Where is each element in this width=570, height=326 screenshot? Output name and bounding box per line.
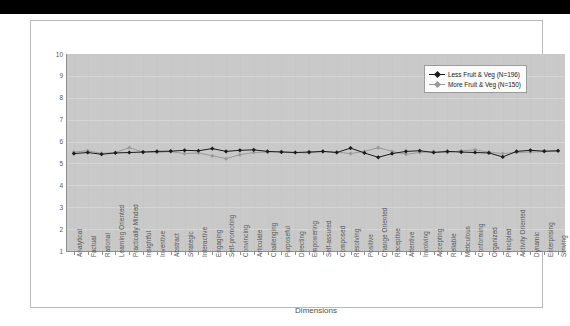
- x-axis-tick: [198, 251, 199, 255]
- x-axis-tick-label: Interactive: [201, 227, 208, 257]
- y-axis-tick-label: 6: [41, 138, 63, 145]
- y-axis-line: [66, 54, 67, 252]
- x-axis-tick: [544, 251, 545, 255]
- legend-label-series-2: More Fruit & Veg (N=150): [448, 81, 521, 88]
- x-axis-tick: [461, 251, 462, 255]
- data-point[interactable]: [210, 154, 214, 158]
- x-axis-tick: [323, 251, 324, 255]
- data-point[interactable]: [127, 150, 131, 154]
- chart-frame: 10987654321 AnalyticalFactualRationalLea…: [30, 20, 543, 308]
- x-axis-tick-label: Positive: [367, 234, 374, 257]
- data-point[interactable]: [556, 149, 560, 153]
- data-point[interactable]: [182, 148, 186, 152]
- data-point[interactable]: [141, 150, 145, 154]
- y-axis-tick-label: 9: [41, 72, 63, 79]
- data-point[interactable]: [348, 146, 352, 150]
- y-axis-tick-label: 2: [41, 226, 63, 233]
- data-point[interactable]: [210, 146, 214, 150]
- y-axis-tick-label: 10: [41, 51, 63, 58]
- x-axis-tick: [115, 251, 116, 255]
- x-axis-tick: [309, 251, 310, 255]
- x-axis-tick-label: Directing: [298, 231, 305, 257]
- x-axis-tick: [129, 251, 130, 255]
- x-axis-tick-label: Conforming: [477, 223, 484, 257]
- x-axis-tick: [102, 251, 103, 255]
- data-point[interactable]: [224, 157, 228, 161]
- legend-item[interactable]: Less Fruit & Veg (N=196): [429, 69, 521, 79]
- data-point[interactable]: [404, 149, 408, 153]
- x-axis-tick-label: Rational: [104, 233, 111, 257]
- x-axis-tick-label: Insightful: [145, 231, 152, 257]
- x-axis-tick-label: Inventive: [159, 231, 166, 257]
- x-axis-tick-label: Reliable: [450, 233, 457, 257]
- x-axis-tick-label: Dynamic: [533, 232, 540, 257]
- data-point[interactable]: [127, 146, 131, 150]
- x-axis-tick: [378, 251, 379, 255]
- x-axis-tick-label: Practically Minded: [132, 204, 139, 257]
- data-point[interactable]: [238, 153, 242, 157]
- data-point[interactable]: [542, 149, 546, 153]
- data-point[interactable]: [501, 155, 505, 159]
- x-axis-tick: [420, 251, 421, 255]
- x-axis-tick: [392, 251, 393, 255]
- x-axis-tick: [171, 251, 172, 255]
- data-point[interactable]: [376, 146, 380, 150]
- legend-marker-series-2: [429, 80, 445, 88]
- x-axis-tick-label: Resolving: [353, 228, 360, 257]
- x-axis-tick-label: Empowering: [311, 221, 318, 257]
- data-point[interactable]: [224, 149, 228, 153]
- y-axis-tick-label: 3: [41, 204, 63, 211]
- series-line: [74, 148, 558, 157]
- data-point[interactable]: [321, 149, 325, 153]
- y-axis-tick-label: 7: [41, 116, 63, 123]
- x-axis-tick-label: Composed: [339, 226, 346, 257]
- x-axis-tick-label: Involving: [422, 231, 429, 257]
- top-black-bar: [0, 0, 570, 14]
- x-axis-tick-label: Convincing: [242, 225, 249, 257]
- data-point[interactable]: [335, 150, 339, 154]
- x-axis-tick: [157, 251, 158, 255]
- x-axis-tick: [517, 251, 518, 255]
- x-axis-tick-label: Accepting: [436, 228, 443, 257]
- chart-legend: Less Fruit & Veg (N=196) More Fruit & Ve…: [424, 65, 527, 93]
- data-point[interactable]: [238, 148, 242, 152]
- legend-item[interactable]: More Fruit & Veg (N=150): [429, 79, 521, 89]
- legend-label-series-1: Less Fruit & Veg (N=196): [448, 71, 520, 78]
- x-axis-tick: [254, 251, 255, 255]
- data-point[interactable]: [348, 151, 352, 155]
- data-point[interactable]: [376, 155, 380, 159]
- x-axis-tick: [226, 251, 227, 255]
- data-point[interactable]: [279, 150, 283, 154]
- x-axis-tick-label: Purposeful: [284, 226, 291, 257]
- x-axis-tick-label: Factual: [90, 236, 97, 257]
- x-axis-tick-label: Attentive: [408, 232, 415, 257]
- x-axis-tick-label: Meticulous: [464, 226, 471, 257]
- data-point[interactable]: [252, 148, 256, 152]
- x-axis-tick: [74, 251, 75, 255]
- x-axis-tick: [447, 251, 448, 255]
- x-axis-tick: [337, 251, 338, 255]
- legend-marker-series-1: [429, 70, 445, 78]
- x-axis-tick: [364, 251, 365, 255]
- x-axis-tick-label: Striving: [560, 235, 567, 257]
- x-axis-tick-label: Challenging: [270, 223, 277, 257]
- x-axis-tick-label: Engaging: [215, 230, 222, 257]
- x-axis-tick: [268, 251, 269, 255]
- x-axis-tick-label: Enterprising: [547, 222, 554, 257]
- x-axis-tick-label: Organized: [491, 227, 498, 257]
- x-axis-tick: [240, 251, 241, 255]
- data-point[interactable]: [196, 149, 200, 153]
- x-axis-tick: [503, 251, 504, 255]
- data-point[interactable]: [265, 149, 269, 153]
- data-point[interactable]: [293, 150, 297, 154]
- x-axis-tick: [530, 251, 531, 255]
- x-axis-tick: [295, 251, 296, 255]
- data-point[interactable]: [473, 150, 477, 154]
- data-point[interactable]: [169, 149, 173, 153]
- x-axis-tick-label: Change Oriented: [381, 208, 388, 257]
- x-axis-tick-label: Analytical: [76, 229, 83, 257]
- x-axis-tick: [88, 251, 89, 255]
- x-axis-tick: [185, 251, 186, 255]
- x-axis-tick-label: Strategic: [187, 231, 194, 257]
- x-axis-tick: [281, 251, 282, 255]
